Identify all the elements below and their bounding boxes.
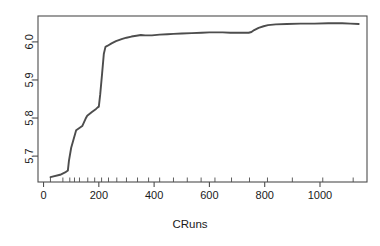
chart-background [0,0,380,246]
x-tick-label: 400 [145,189,163,201]
y-tick-label: 5.9 [23,72,35,87]
x-tick-label: 1000 [308,189,332,201]
y-tick-label: 6.0 [23,34,35,49]
x-tick-label: 200 [90,189,108,201]
chart-canvas: 5.75.85.96.0 02004006008001000 CRuns [0,0,380,246]
y-tick-label: 5.8 [23,110,35,125]
x-tick-label: 800 [256,189,274,201]
plot-figure: 5.75.85.96.0 02004006008001000 CRuns [0,0,380,246]
x-tick-label: 600 [200,189,218,201]
y-tick-label: 5.7 [23,148,35,163]
x-tick-label: 0 [40,189,46,201]
x-axis-title: CRuns [172,218,207,230]
